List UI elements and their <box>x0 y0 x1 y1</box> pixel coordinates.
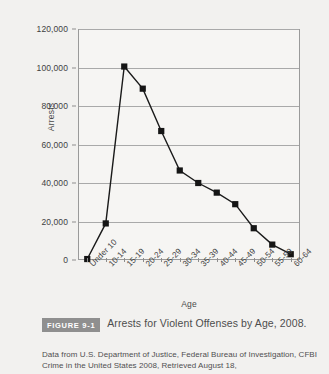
figure-container: Arrests 020,00040,00060,00080,000100,000… <box>0 0 329 374</box>
data-point-marker <box>103 220 109 226</box>
data-point-marker <box>158 128 164 134</box>
x-axis-labels: Under 1010-1415-1920-2425-2930-3435-3940… <box>78 262 300 304</box>
data-point-marker <box>232 201 238 207</box>
data-point-marker <box>140 86 146 92</box>
x-tick-mark <box>124 258 125 262</box>
data-point-marker <box>195 180 201 186</box>
chart-area: Arrests 020,00040,00060,00080,000100,000… <box>0 0 329 312</box>
x-axis-title: Age <box>78 299 300 309</box>
x-tick-mark <box>198 258 199 262</box>
series-polyline <box>87 67 291 260</box>
x-tick-mark <box>143 258 144 262</box>
data-point-marker <box>177 167 183 173</box>
data-point-marker <box>251 225 257 231</box>
x-tick-mark <box>291 258 292 262</box>
series-markers <box>84 63 294 262</box>
x-tick-mark <box>106 258 107 262</box>
x-tick-mark <box>180 258 181 262</box>
x-tick-mark <box>161 258 162 262</box>
x-tick-mark <box>235 258 236 262</box>
x-tick-mark <box>254 258 255 262</box>
data-point-marker <box>214 190 220 196</box>
data-point-marker <box>121 63 127 69</box>
figure-number-badge: FIGURE 9-1 <box>42 318 100 332</box>
x-tick-mark <box>87 258 88 262</box>
figure-caption-text: Arrests for Violent Offenses by Age, 200… <box>107 317 306 330</box>
x-tick-mark <box>272 258 273 262</box>
figure-source-text: Data from U.S. Department of Justice, Fe… <box>42 350 325 371</box>
x-tick-mark <box>217 258 218 262</box>
figure-caption-row: FIGURE 9-1 Arrests for Violent Offenses … <box>42 317 320 332</box>
